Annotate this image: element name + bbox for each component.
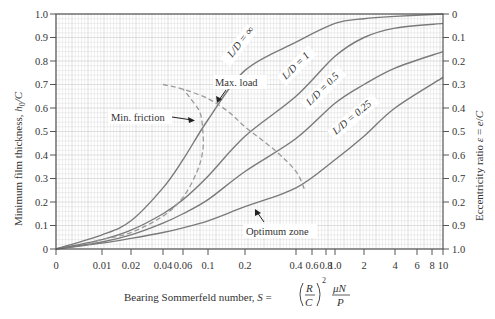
- svg-text:1.0: 1.0: [35, 9, 48, 20]
- svg-text:0.4: 0.4: [452, 103, 466, 114]
- svg-text:0.6: 0.6: [305, 260, 318, 271]
- svg-text:0.7: 0.7: [452, 173, 465, 184]
- svg-text:Max. load: Max. load: [215, 77, 258, 88]
- svg-text:0.6: 0.6: [452, 150, 465, 161]
- svg-text:0.8: 0.8: [35, 56, 48, 67]
- dashed-curve-1: [163, 85, 305, 191]
- x-axis-title: Bearing Sommerfeld number, S = R C 2 μN …: [124, 276, 350, 308]
- svg-text:0.2: 0.2: [452, 56, 465, 67]
- svg-text:0: 0: [53, 260, 58, 271]
- svg-text:4: 4: [392, 260, 398, 271]
- svg-text:0.1: 0.1: [35, 220, 48, 231]
- svg-text:0.04: 0.04: [154, 260, 173, 271]
- svg-text:μN: μN: [332, 282, 347, 294]
- x-axis-ticks: 00.010.020.040.060.10.20.40.60.81.024681…: [53, 249, 448, 271]
- svg-text:0.1: 0.1: [452, 32, 465, 43]
- svg-text:R: R: [305, 282, 313, 294]
- svg-text:0.4: 0.4: [35, 150, 49, 161]
- svg-text:0.06: 0.06: [174, 260, 192, 271]
- svg-text:2: 2: [361, 260, 366, 271]
- svg-text:0: 0: [43, 244, 48, 255]
- svg-text:0.5: 0.5: [35, 126, 48, 137]
- svg-text:1.0: 1.0: [328, 260, 341, 271]
- y2-axis-title: Eccentricity ratio ε = e/C: [473, 110, 485, 221]
- y-axis-ticks: 00.10.20.30.40.50.60.70.80.91.0: [35, 9, 56, 255]
- svg-text:0.01: 0.01: [93, 260, 111, 271]
- svg-text:0.2: 0.2: [35, 197, 48, 208]
- svg-text:8: 8: [429, 260, 434, 271]
- svg-text:P: P: [336, 296, 344, 308]
- y2-axis-ticks: 1.00.90.20.70.60.50.40.30.20.10: [443, 9, 466, 255]
- svg-text:1.0: 1.0: [452, 244, 465, 255]
- svg-text:0.3: 0.3: [35, 173, 48, 184]
- svg-text:0.02: 0.02: [122, 260, 140, 271]
- svg-text:C: C: [305, 296, 313, 308]
- svg-text:0.7: 0.7: [35, 79, 48, 90]
- svg-text:Bearing Sommerfeld number, S =: Bearing Sommerfeld number, S =: [124, 291, 272, 303]
- svg-text:0.2: 0.2: [452, 197, 465, 208]
- svg-text:0.6: 0.6: [35, 103, 48, 114]
- svg-text:0.4: 0.4: [289, 260, 303, 271]
- chart-figure: 00.010.020.040.060.10.20.40.60.81.024681…: [0, 0, 495, 319]
- svg-text:0.9: 0.9: [35, 32, 48, 43]
- svg-text:0: 0: [452, 9, 457, 20]
- svg-text:6: 6: [414, 260, 419, 271]
- svg-text:0.9: 0.9: [452, 220, 465, 231]
- svg-text:0.3: 0.3: [452, 79, 465, 90]
- y-axis-title: Minimum film thickness, h0/C: [12, 91, 27, 226]
- svg-text:0.5: 0.5: [452, 126, 465, 137]
- svg-text:10: 10: [438, 260, 449, 271]
- svg-text:0.2: 0.2: [238, 260, 251, 271]
- svg-text:0.1: 0.1: [201, 260, 214, 271]
- svg-text:Optimum zone: Optimum zone: [246, 226, 309, 237]
- curve-label-ld-05: L/D = 0.5: [301, 66, 347, 112]
- svg-text:2: 2: [322, 276, 326, 285]
- svg-text:Min. friction: Min. friction: [111, 112, 165, 123]
